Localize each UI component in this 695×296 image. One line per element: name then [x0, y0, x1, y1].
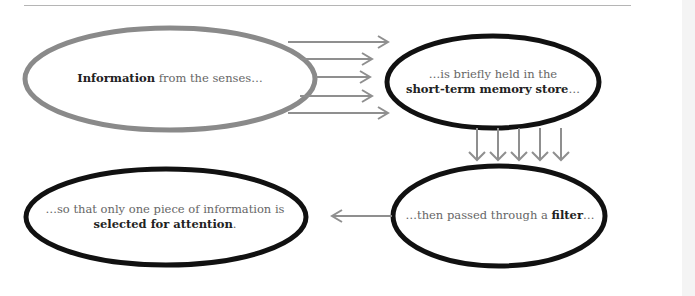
node-filter-bold: filter [552, 208, 583, 222]
node-stm: …is briefly held in the short-term memor… [393, 67, 593, 97]
node-stm-rest: … [568, 82, 580, 96]
node-attention-rest: . [233, 217, 237, 231]
arrow-filter-to-attention [332, 210, 392, 222]
node-filter-pre: …then passed through a [406, 208, 552, 222]
node-filter-rest: … [583, 208, 595, 222]
node-senses: Information from the senses… [60, 71, 280, 86]
node-stm-bold: short-term memory store [406, 82, 568, 96]
node-attention-bold: selected for attention [94, 217, 233, 231]
node-attention-line1: …so that only one piece of information i… [40, 202, 290, 217]
node-attention: …so that only one piece of information i… [40, 202, 290, 232]
node-stm-line1: …is briefly held in the [393, 67, 593, 82]
node-senses-bold: Information [77, 71, 155, 85]
node-senses-text: from the senses… [155, 71, 263, 85]
arrows-stm-to-filter [469, 128, 569, 160]
node-filter: …then passed through a filter… [400, 208, 600, 223]
flow-diagram [0, 0, 695, 296]
arrows-senses-to-stm [288, 36, 388, 119]
